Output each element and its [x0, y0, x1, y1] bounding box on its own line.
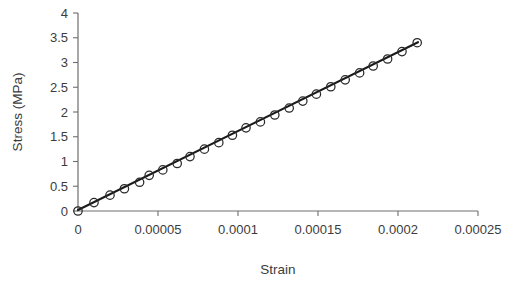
x-tick-label: 0.0002	[378, 222, 418, 237]
linear-fit-line	[78, 42, 418, 210]
y-tick-label: 4	[61, 6, 68, 21]
y-tick-label: 0.5	[50, 179, 68, 194]
x-tick-label: 0.0001	[218, 222, 258, 237]
y-tick-labels: 00.511.522.533.54	[50, 6, 68, 219]
chart-figure: 00.511.522.533.54 00.000050.00010.000150…	[0, 0, 517, 289]
y-tick-label: 1	[61, 154, 68, 169]
y-tick-label: 3.5	[50, 30, 68, 45]
x-tick-label: 0.00005	[135, 222, 182, 237]
y-tick-label: 0	[61, 204, 68, 219]
x-tick-label: 0.00025	[455, 222, 502, 237]
x-tick-label: 0.00015	[295, 222, 342, 237]
x-axis-title: Strain	[260, 262, 295, 277]
y-tick-label: 2	[61, 105, 68, 120]
y-axis-title: Stress (MPa)	[10, 73, 25, 152]
stress-strain-plot: 00.511.522.533.54 00.000050.00010.000150…	[0, 0, 517, 289]
y-tick-label: 1.5	[50, 129, 68, 144]
y-tick-label: 3	[61, 55, 68, 70]
y-tick-label: 2.5	[50, 80, 68, 95]
x-tick-labels: 00.000050.00010.000150.00020.00025	[74, 222, 501, 237]
x-tick-label: 0	[74, 222, 81, 237]
